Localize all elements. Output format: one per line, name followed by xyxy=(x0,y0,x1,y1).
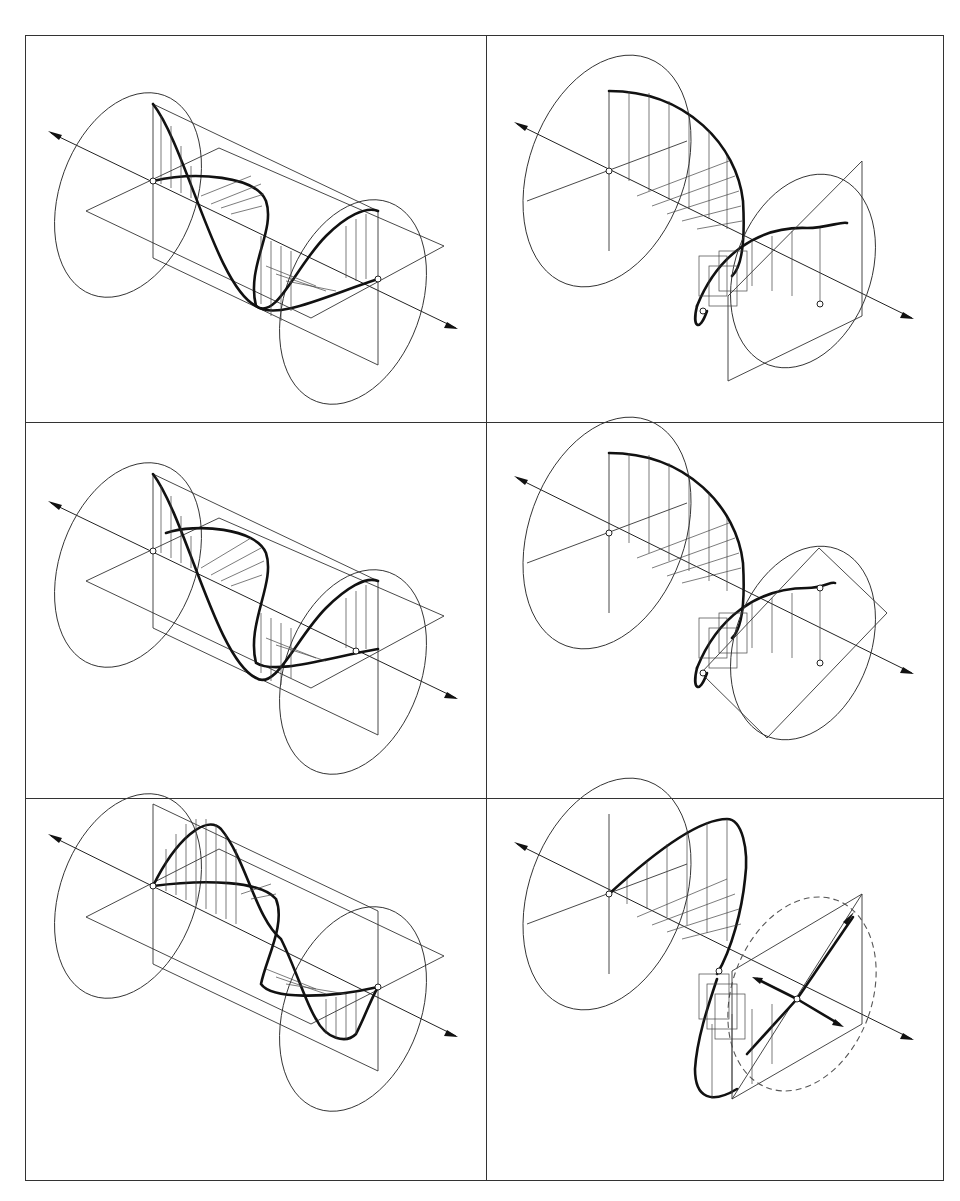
figure-grid xyxy=(25,35,944,1181)
arrow-icon xyxy=(48,131,62,140)
panel-top-right xyxy=(487,36,945,422)
cylinder-wave-diagram xyxy=(26,36,486,422)
arrow-icon xyxy=(514,842,528,851)
diagonal-polarization-diagram xyxy=(487,799,945,1182)
arrow-icon xyxy=(48,501,62,510)
panel-middle-right xyxy=(487,423,945,798)
cylinder-wave-diagram xyxy=(26,799,486,1182)
arrow-icon xyxy=(514,476,528,485)
elliptical-polarization-diagram xyxy=(487,423,945,798)
circular-polarization-diagram xyxy=(487,36,945,422)
arrow-icon xyxy=(752,977,763,984)
cylinder-wave-diagram xyxy=(26,423,486,798)
panel-bottom-left xyxy=(26,799,486,1182)
arrow-icon xyxy=(514,122,528,131)
arrow-icon xyxy=(48,834,62,843)
panel-top-left xyxy=(26,36,486,422)
panel-middle-left xyxy=(26,423,486,798)
panel-bottom-right xyxy=(487,799,945,1182)
